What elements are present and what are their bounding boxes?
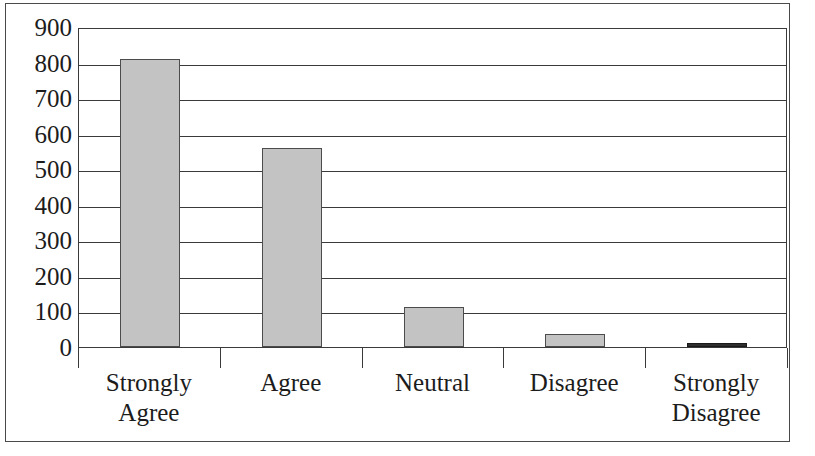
- y-tick-label: 400: [10, 192, 72, 220]
- bars-group: [79, 29, 786, 347]
- plot-area: [78, 28, 787, 348]
- x-tick-label: Neutral: [362, 368, 504, 398]
- x-tick-label-line: Neutral: [362, 368, 504, 398]
- x-tick-label: StronglyAgree: [78, 368, 220, 428]
- category-tick: [362, 348, 363, 368]
- y-tick-label: 500: [10, 156, 72, 184]
- x-tick-label-line: Agree: [78, 398, 220, 428]
- x-axis-category-labels: StronglyAgreeAgreeNeutralDisagreeStrongl…: [78, 368, 787, 438]
- bar-chart-figure: 9008007006005004003002001000 StronglyAgr…: [0, 0, 815, 456]
- x-tick-label: Agree: [220, 368, 362, 398]
- y-tick-label: 300: [10, 227, 72, 255]
- x-tick-label-line: Strongly: [645, 368, 787, 398]
- x-tick-label-line: Disagree: [503, 368, 645, 398]
- category-tick: [78, 348, 79, 368]
- x-tick-label: Disagree: [503, 368, 645, 398]
- bar: [687, 343, 747, 347]
- bar: [120, 59, 180, 347]
- category-tick-marks: [78, 348, 787, 370]
- y-tick-label: 600: [10, 121, 72, 149]
- x-tick-label-line: Strongly: [78, 368, 220, 398]
- bar: [404, 307, 464, 347]
- bar: [545, 334, 605, 348]
- x-tick-label-line: Disagree: [645, 398, 787, 428]
- x-tick-label: StronglyDisagree: [645, 368, 787, 428]
- y-tick-label: 0: [10, 334, 72, 362]
- y-tick-label: 100: [10, 298, 72, 326]
- y-axis-tick-labels: 9008007006005004003002001000: [10, 14, 72, 366]
- x-tick-label-line: Agree: [220, 368, 362, 398]
- category-tick: [220, 348, 221, 368]
- category-tick: [787, 348, 788, 368]
- y-tick-label: 900: [10, 14, 72, 42]
- category-tick: [645, 348, 646, 368]
- y-tick-label: 800: [10, 50, 72, 78]
- bar: [262, 148, 322, 347]
- y-tick-label: 700: [10, 85, 72, 113]
- y-tick-label: 200: [10, 263, 72, 291]
- category-tick: [503, 348, 504, 368]
